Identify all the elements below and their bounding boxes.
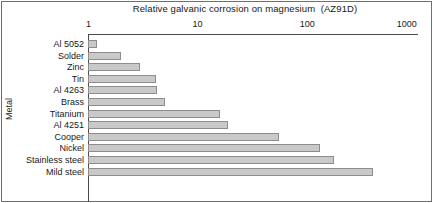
y-tick-label-al-4251: Al 4251 (0, 120, 84, 130)
y-tick-label-solder: Solder (0, 51, 84, 61)
y-tick-label-al-5052: Al 5052 (0, 39, 84, 49)
y-tick-label-cooper: Cooper (0, 132, 84, 142)
y-axis-tick-labels: Al 5052SolderZincTinAl 4263BrassTitanium… (0, 19, 84, 189)
y-tick-label-nickel: Nickel (0, 143, 84, 153)
bar-al-4263 (88, 86, 157, 94)
y-tick-label-brass: Brass (0, 97, 84, 107)
x-axis-line (88, 34, 418, 35)
bar-brass (88, 98, 165, 106)
bar-tin (88, 75, 156, 83)
bar-al-4251 (88, 121, 228, 129)
bar-stainless-steel (88, 156, 334, 164)
x-tick-label-100: 100 (300, 19, 315, 29)
x-tick-label-1: 1 (86, 19, 91, 29)
bar-titanium (88, 110, 220, 118)
y-tick-label-mild-steel: Mild steel (0, 167, 84, 177)
y-tick-label-titanium: Titanium (0, 109, 84, 119)
bar-mild-steel (88, 168, 373, 176)
y-tick-label-al-4263: Al 4263 (0, 85, 84, 95)
bar-al-5052 (88, 40, 97, 48)
galvanic-corrosion-bar-chart: Relative galvanic corrosion on magnesium… (0, 0, 433, 203)
bar-zinc (88, 63, 140, 71)
y-tick-label-stainless-steel: Stainless steel (0, 155, 84, 165)
x-tick-label-1000: 1000 (397, 19, 417, 29)
bar-nickel (88, 144, 320, 152)
bar-solder (88, 52, 121, 60)
x-tick-label-10: 10 (193, 19, 203, 29)
plot-area: 1101001000 (88, 19, 418, 189)
y-tick-label-tin: Tin (0, 74, 84, 84)
y-tick-label-zinc: Zinc (0, 62, 84, 72)
chart-title: Relative galvanic corrosion on magnesium… (60, 3, 430, 14)
bar-cooper (88, 133, 279, 141)
